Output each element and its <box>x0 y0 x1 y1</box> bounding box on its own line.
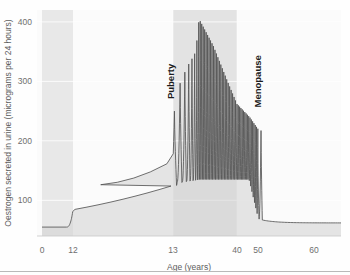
x-tick-label: 40 <box>232 245 242 255</box>
x-tick-label: 13 <box>168 245 178 255</box>
annotation-menopause: Menopause <box>252 55 263 107</box>
y-axis-title: Oestrogen secreted in urine (micrograms … <box>3 19 13 227</box>
band-childhood <box>42 10 73 236</box>
x-tick-label: 12 <box>68 245 78 255</box>
y-tick-label: 100 <box>18 195 32 205</box>
oestrogen-chart-svg: 10020030040001213405060Age (years)Oestro… <box>0 0 350 275</box>
x-tick-label: 60 <box>309 245 319 255</box>
y-tick-label: 200 <box>18 136 32 146</box>
x-tick-label: 50 <box>253 245 263 255</box>
y-tick-label: 300 <box>18 76 32 86</box>
plot-area: 10020030040001213405060Age (years)Oestro… <box>0 0 350 275</box>
footer-divider <box>0 271 350 272</box>
chart-figure: 10020030040001213405060Age (years)Oestro… <box>0 0 350 275</box>
y-tick-label: 400 <box>18 17 32 27</box>
annotation-puberty: Puberty <box>165 63 176 99</box>
x-tick-label: 0 <box>40 245 45 255</box>
